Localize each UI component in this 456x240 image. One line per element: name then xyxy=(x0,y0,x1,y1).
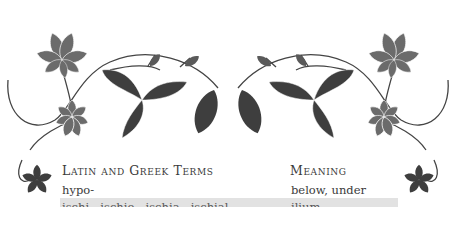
table-row: ischi-, ischio-, ischia-, ischial ilium xyxy=(60,198,398,207)
header-meaning: Meaning xyxy=(290,163,347,178)
leaf-cluster-left-top xyxy=(35,31,88,79)
table-header: Latin and Greek Terms Meaning xyxy=(60,161,398,181)
table-row: hypo- below, under xyxy=(60,181,398,198)
header-terms: Latin and Greek Terms xyxy=(62,163,214,178)
term-cell: ischi-, ischio-, ischia-, ischial xyxy=(62,200,228,207)
meaning-cell: below, under xyxy=(291,183,366,197)
terms-table: Latin and Greek Terms Meaning hypo- belo… xyxy=(60,161,398,207)
term-cell: hypo- xyxy=(62,183,94,197)
meaning-cell: ilium xyxy=(291,200,320,207)
